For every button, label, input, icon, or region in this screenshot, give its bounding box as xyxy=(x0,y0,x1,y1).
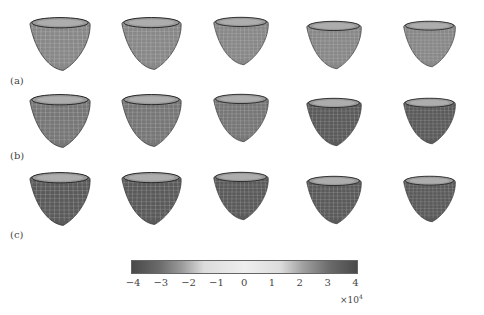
heart-mesh xyxy=(120,92,183,149)
heart-mesh xyxy=(305,19,363,71)
colorbar-tick: 0 xyxy=(241,277,247,288)
heart-mesh xyxy=(28,15,92,73)
colorbar-tick: 2 xyxy=(297,277,303,288)
heart-mesh xyxy=(402,174,457,224)
heart-mesh xyxy=(305,174,363,226)
colorbar-tick: −1 xyxy=(209,277,224,288)
heart-mesh xyxy=(402,96,457,146)
colorbar-tick: −3 xyxy=(153,277,168,288)
colorbar-tick: 4 xyxy=(352,277,358,288)
row-label-b: (b) xyxy=(10,150,24,161)
colorbar-tick: −2 xyxy=(181,277,196,288)
colorbar-tick: 3 xyxy=(324,277,330,288)
colorbar xyxy=(131,260,358,274)
colorbar-exponent: ×104 xyxy=(340,293,363,305)
exponent-value: 4 xyxy=(359,293,363,300)
heart-mesh xyxy=(212,170,270,222)
heart-mesh xyxy=(28,170,92,228)
heart-mesh xyxy=(305,96,363,148)
heart-mesh xyxy=(212,15,270,67)
row-label-a: (a) xyxy=(10,75,24,86)
colorbar-tick: −4 xyxy=(126,277,141,288)
row-label-c: (c) xyxy=(10,229,23,240)
colorbar-tick: 1 xyxy=(269,277,275,288)
heart-mesh xyxy=(402,19,457,69)
heart-mesh xyxy=(212,92,270,144)
heart-mesh xyxy=(120,15,183,72)
exponent-prefix: ×10 xyxy=(340,295,359,305)
heart-mesh xyxy=(28,92,92,150)
heart-mesh xyxy=(120,170,183,227)
